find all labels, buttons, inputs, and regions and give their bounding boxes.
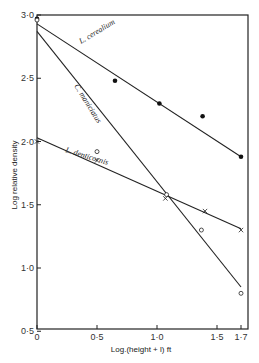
y-tick-label: 2·0 xyxy=(21,137,34,147)
x-tick-label: 1·0 xyxy=(150,332,163,342)
x-axis-label: Log.(height + l) ft xyxy=(111,345,172,354)
y-tick-label: 3·0 xyxy=(21,10,34,20)
point-filled-circle xyxy=(200,114,205,119)
point-open-circle xyxy=(165,193,169,197)
point-filled-circle xyxy=(157,101,162,106)
y-tick-label: 1·0 xyxy=(21,263,34,273)
y-tick-label: 1·5 xyxy=(21,200,34,210)
y-tick-label: 0·5 xyxy=(21,326,34,336)
point-filled-circle xyxy=(239,154,244,159)
fit-line-0 xyxy=(37,24,241,157)
plot-frame xyxy=(37,15,248,329)
point-filled-circle xyxy=(113,78,118,83)
point-cross xyxy=(163,196,167,200)
fit-lines xyxy=(37,24,241,287)
y-tick-label: 2·5 xyxy=(21,73,34,83)
x-tick-label: 0·5 xyxy=(90,332,103,342)
chart: 00·51·01·51·70·51·01·52·02·53·0 L. cerea… xyxy=(0,0,259,363)
point-open-circle xyxy=(199,228,203,232)
x-tick-label: 1·5 xyxy=(210,332,223,342)
series-label-maniciatus: C. maniciatus xyxy=(72,82,103,124)
fit-line-1 xyxy=(37,31,241,287)
axis-ticks: 00·51·01·51·70·51·01·52·02·53·0 xyxy=(21,10,248,342)
x-tick-label: 1·7 xyxy=(234,332,247,342)
x-tick-label: 0 xyxy=(34,332,39,342)
y-axis-label: Log relative density xyxy=(10,141,19,210)
point-open-circle xyxy=(35,18,39,22)
data-points xyxy=(35,16,244,295)
series-label-cerealium: L. cerealium xyxy=(77,17,117,46)
series-label-denticornis: L. denticornis xyxy=(63,145,109,167)
plot-border xyxy=(37,15,248,329)
point-open-circle xyxy=(239,291,243,295)
